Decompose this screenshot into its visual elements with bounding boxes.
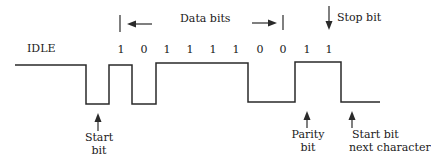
start-bit-line1: Start (85, 132, 113, 144)
parity-bit-label: Parity bit (292, 129, 325, 154)
start-bit-next-line2: next character (349, 142, 431, 154)
left-arrow-icon (127, 21, 152, 28)
bit-label: 1 (304, 43, 311, 56)
parity-bit-line1: Parity (292, 129, 325, 141)
bit-label: 1 (210, 43, 217, 56)
start-bit-next-line1: Start bit (349, 129, 431, 141)
parity-bit-arrow-icon (304, 111, 311, 128)
right-arrow-icon (252, 20, 277, 27)
start-bit-arrow-icon (95, 113, 102, 131)
start-bit-label: Start bit (85, 132, 113, 157)
bit-label: 1 (233, 43, 240, 56)
signal-waveform (15, 62, 380, 104)
bit-label: 0 (280, 43, 287, 56)
bit-label: 1 (118, 43, 125, 56)
next-start-bit-arrow-icon (349, 111, 356, 128)
bit-label: 1 (326, 43, 333, 56)
bit-label: 1 (187, 43, 194, 56)
stop-bit-arrow-icon (326, 6, 333, 30)
bit-label: 0 (141, 43, 148, 56)
stop-bit-label: Stop bit (337, 12, 381, 24)
start-bit-next-label: Start bit next character (349, 129, 431, 154)
parity-bit-line2: bit (292, 142, 325, 154)
bit-label: 1 (164, 43, 171, 56)
data-bits-label: Data bits (180, 13, 230, 25)
start-bit-line2: bit (85, 145, 113, 157)
idle-label: IDLE (27, 43, 56, 55)
bit-label: 0 (257, 43, 264, 56)
